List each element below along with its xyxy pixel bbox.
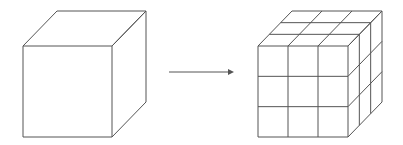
top-depth-line — [288, 11, 322, 46]
top-depth-line — [318, 11, 352, 46]
side-depth-line — [348, 11, 382, 46]
side-depth-line — [348, 102, 382, 137]
side-depth-line — [348, 41, 382, 76]
diagram — [0, 0, 403, 145]
subdivided-cube-3x3x3 — [0, 0, 403, 145]
side-depth-line — [348, 72, 382, 107]
top-depth-line — [258, 11, 292, 46]
